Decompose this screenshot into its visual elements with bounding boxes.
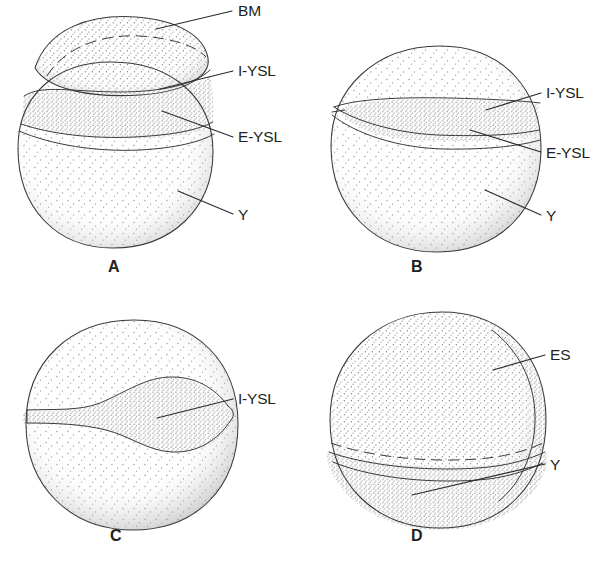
label-iysl-c: I-YSL (238, 390, 276, 407)
label-bm: BM (238, 2, 261, 19)
panel-letter-a: A (108, 258, 120, 275)
label-eysl-a: E-YSL (238, 128, 282, 145)
label-es-d: ES (550, 346, 570, 363)
panel-letter-b: B (411, 258, 423, 275)
label-y-a: Y (238, 206, 248, 223)
label-iysl-b: I-YSL (546, 84, 584, 101)
label-iysl-a: I-YSL (238, 62, 276, 79)
label-y-d: Y (550, 456, 560, 473)
figure-epiboly-stages: BM I-YSL E-YSL Y A I-YSL E-YSL Y B (0, 0, 607, 564)
panel-letter-c: C (110, 527, 122, 544)
label-eysl-b: E-YSL (546, 144, 590, 161)
label-y-b: Y (546, 207, 556, 224)
panel-letter-d: D (411, 527, 423, 544)
